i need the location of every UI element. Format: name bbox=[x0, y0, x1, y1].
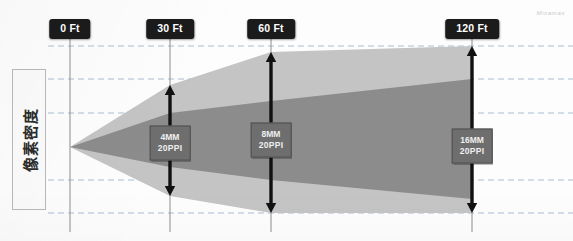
pill-120ft[interactable]: 120 Ft bbox=[445, 19, 499, 39]
y-axis-label-text: 像素密度 bbox=[19, 108, 40, 172]
chip-120ft-density: 20PPI bbox=[460, 146, 485, 157]
chip-30ft-density: 20PPI bbox=[158, 143, 183, 154]
chip-60ft-size: 8MM bbox=[259, 129, 284, 140]
pill-0ft[interactable]: 0 Ft bbox=[49, 19, 90, 39]
chip-30ft-size: 4MM bbox=[158, 132, 183, 143]
chip-120ft-size: 16MM bbox=[460, 135, 485, 146]
y-axis-label-box: 像素密度 bbox=[12, 69, 46, 210]
chip-60ft[interactable]: 8MM20PPI bbox=[251, 123, 292, 158]
chip-60ft-density: 20PPI bbox=[259, 140, 284, 151]
pill-30ft[interactable]: 30 Ft bbox=[146, 19, 194, 39]
chip-30ft[interactable]: 4MM20PPI bbox=[150, 126, 191, 161]
watermark-text: Minamax bbox=[536, 10, 565, 16]
diagram-canvas: 像素密度 0 Ft30 Ft60 Ft120 Ft 4MM20PPI8MM20P… bbox=[0, 0, 573, 241]
chip-120ft[interactable]: 16MM20PPI bbox=[452, 129, 493, 164]
pill-60ft[interactable]: 60 Ft bbox=[247, 19, 295, 39]
